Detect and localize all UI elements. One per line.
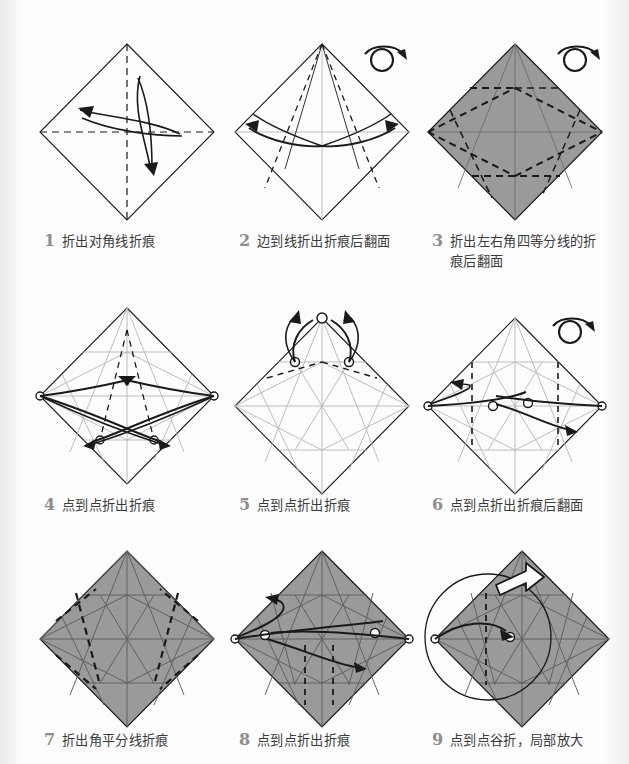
step-caption-7: 7 折出角平分线折痕	[44, 731, 219, 751]
step-caption-1: 1 折出对角线折痕	[44, 232, 219, 252]
step-cell-1: 1 折出对角线折痕	[32, 36, 222, 266]
step-figure-3	[420, 36, 615, 236]
step-text-9: 点到点谷折，局部放大	[450, 731, 583, 751]
step-caption-6: 6 点到点折出折痕后翻面	[432, 496, 617, 516]
step-caption-4: 4 点到点折出折痕	[44, 496, 219, 516]
step-cell-7: 7 折出角平分线折痕	[32, 545, 227, 760]
step-figure-5	[227, 300, 422, 500]
step-caption-8: 8 点到点折出折痕	[239, 731, 414, 751]
step-number-3: 3	[432, 232, 443, 249]
step-text-1: 折出对角线折痕	[62, 232, 155, 252]
step-cell-6: 6 点到点折出折痕后翻面	[420, 300, 615, 530]
step-figure-2	[227, 36, 422, 236]
step-figure-1	[32, 36, 222, 236]
step-cell-8: 8 点到点折出折痕	[227, 545, 422, 760]
step-cell-4: 4 点到点折出折痕	[32, 300, 227, 530]
step-number-2: 2	[239, 232, 250, 249]
step-text-2: 边到线折出折痕后翻面	[257, 232, 390, 252]
step-number-7: 7	[44, 731, 55, 748]
step-number-6: 6	[432, 496, 443, 513]
step-text-3: 折出左右角四等分线的折痕后翻面	[450, 232, 602, 272]
step-figure-4	[32, 300, 227, 500]
step-text-6: 点到点折出折痕后翻面	[450, 496, 583, 516]
turn-over-icon	[558, 47, 600, 72]
step-cell-3: 3 折出左右角四等分线的折痕后翻面	[420, 36, 615, 266]
step-caption-9: 9 点到点谷折，局部放大	[432, 731, 617, 751]
step-text-5: 点到点折出折痕	[257, 496, 350, 516]
step-number-5: 5	[239, 496, 250, 513]
step-figure-8	[227, 545, 422, 735]
turn-over-icon	[553, 319, 595, 344]
step-caption-3: 3 折出左右角四等分线的折痕后翻面	[432, 232, 602, 272]
step-number-9: 9	[432, 731, 443, 748]
step-figure-7	[32, 545, 227, 735]
turn-over-icon	[365, 47, 407, 72]
step-text-4: 点到点折出折痕	[62, 496, 155, 516]
step-cell-2: 2 边到线折出折痕后翻面	[227, 36, 422, 266]
origami-instruction-page: 1 折出对角线折痕	[0, 0, 629, 764]
step-text-8: 点到点折出折痕	[257, 731, 350, 751]
step-number-4: 4	[44, 496, 55, 513]
step-number-1: 1	[44, 232, 55, 249]
step-figure-9	[420, 545, 620, 735]
step-cell-9: 9 点到点谷折，局部放大	[420, 545, 620, 760]
step-figure-6	[420, 300, 615, 500]
page-gutter-left	[0, 0, 22, 764]
step-caption-5: 5 点到点折出折痕	[239, 496, 414, 516]
step-text-7: 折出角平分线折痕	[62, 731, 168, 751]
step-caption-2: 2 边到线折出折痕后翻面	[239, 232, 419, 252]
steps-grid: 1 折出对角线折痕	[22, 0, 603, 764]
step-number-8: 8	[239, 731, 250, 748]
step-cell-5: 5 点到点折出折痕	[227, 300, 422, 530]
